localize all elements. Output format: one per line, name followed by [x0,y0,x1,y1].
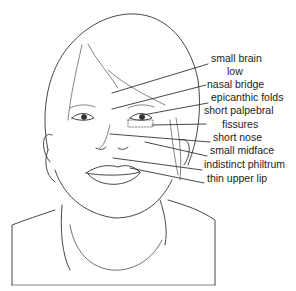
label-short-palpebral: short palpebral [204,104,273,116]
facial-features-diagram: small brain low nasal bridge epicanthic … [0,0,296,291]
label-indistinct-philtrum: indistinct philtrum [204,158,285,170]
label-thin-upper-lip: thin upper lip [207,172,267,184]
label-fissures: fissures [222,118,258,130]
label-small-brain: small brain [211,52,262,64]
label-low: low [227,65,243,77]
label-epicanthic-folds: epicanthic folds [211,91,283,103]
label-short-nose: short nose [213,131,262,143]
label-small-midface: small midface [210,144,274,156]
label-nasal-bridge: nasal bridge [207,78,264,90]
